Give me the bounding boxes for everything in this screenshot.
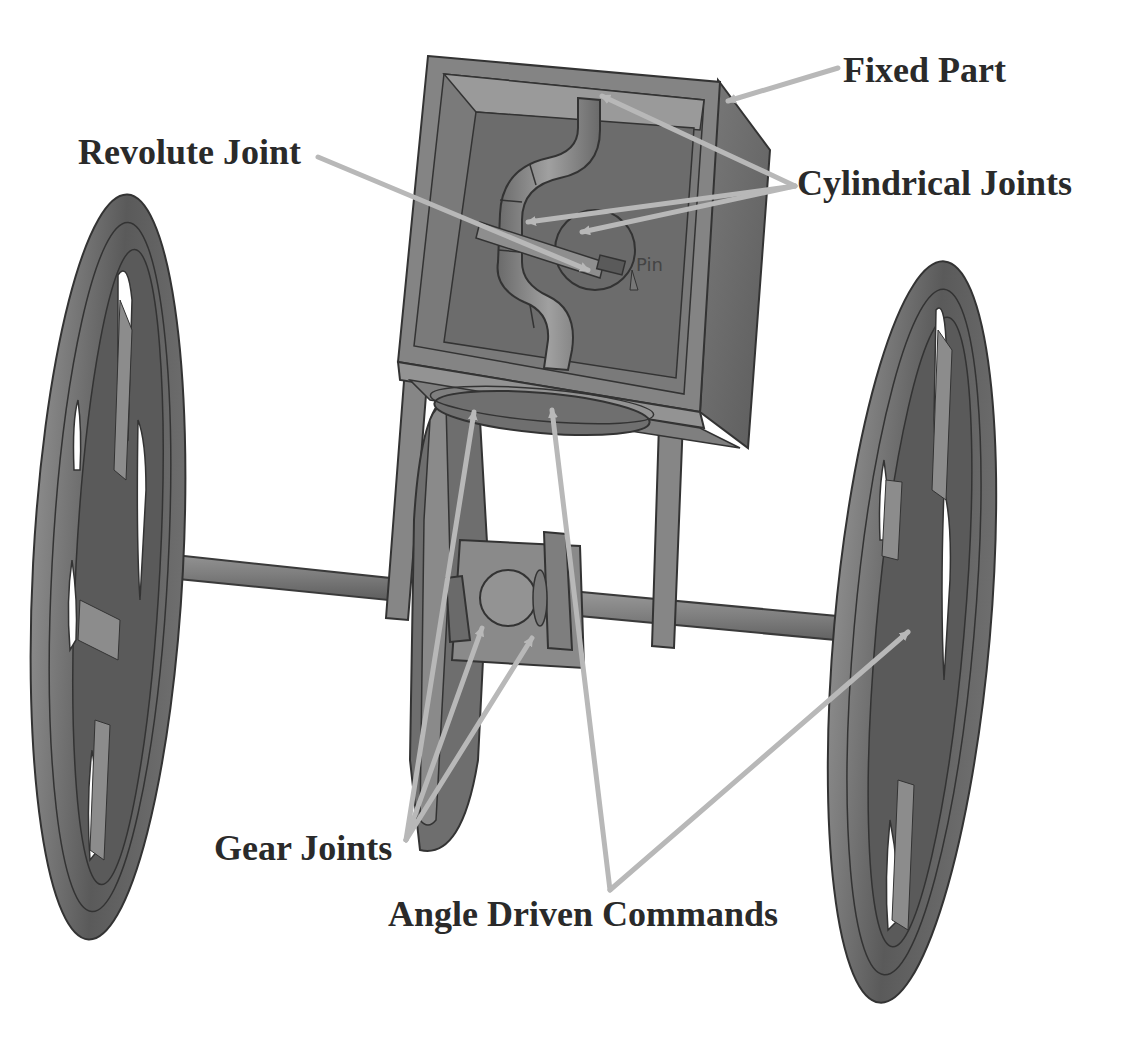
right-wheel (802, 255, 1022, 1010)
label-angle-driven-commands: Angle Driven Commands (388, 896, 778, 932)
label-revolute-joint: Revolute Joint (78, 134, 301, 170)
arrow-fixed-part (728, 68, 838, 101)
label-fixed-part: Fixed Part (843, 52, 1006, 88)
gear-box (446, 532, 584, 668)
mechanism-diagram: Pin Fixed Part Revolute Joint Cylindrica… (0, 0, 1125, 1040)
pin-annotation: Pin (636, 254, 663, 275)
label-cylindrical-joints: Cylindrical Joints (797, 165, 1072, 201)
label-gear-joints: Gear Joints (214, 830, 392, 866)
left-wheel (14, 191, 203, 944)
